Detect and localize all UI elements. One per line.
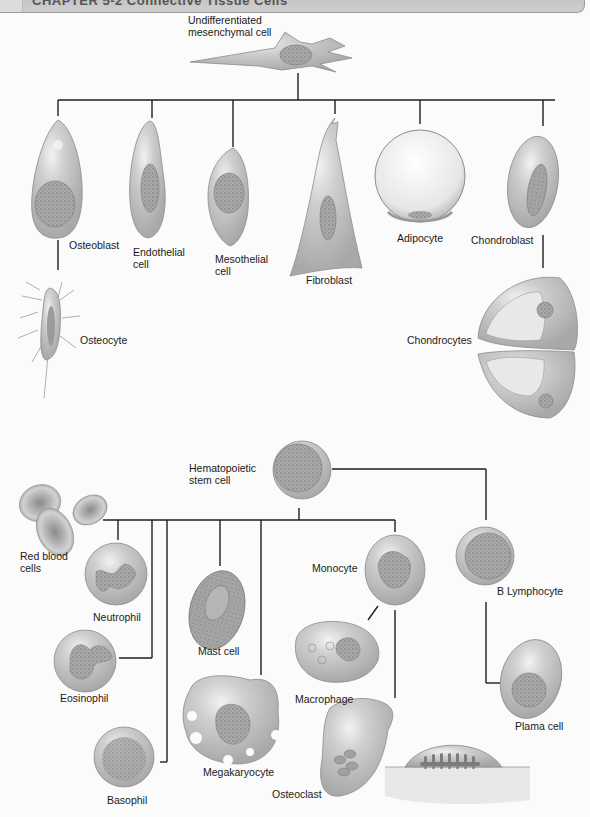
label-chondroblast: Chondroblast (471, 234, 533, 246)
label-neutrophil: Neutrophil (93, 611, 141, 623)
basophil-illustration (94, 727, 154, 787)
label-osteocyte: Osteocyte (80, 334, 127, 346)
endothelial-cell-illustration (130, 121, 166, 238)
label-red-blood-cells: Red blood cells (20, 550, 68, 574)
label-monocyte: Monocyte (312, 562, 358, 574)
label-osteoblast: Osteoblast (69, 239, 119, 251)
eosinophil-illustration (54, 630, 116, 692)
label-fibroblast: Fibroblast (306, 274, 352, 286)
chondrocytes-illustration (478, 277, 577, 418)
adipocyte-illustration (375, 130, 465, 222)
neutrophil-illustration (85, 543, 147, 605)
label-eosinophil: Eosinophil (60, 692, 108, 704)
mast-cell-illustration (181, 564, 254, 655)
label-macrophage: Macrophage (295, 693, 353, 705)
b-lymphocyte-illustration (456, 527, 514, 585)
label-osteoclast: Osteoclast (272, 788, 322, 800)
label-mesothelial-cell: Mesothelial cell (215, 253, 268, 277)
label-mesenchymal-cell: Undifferentiated mesenchymal cell (188, 14, 271, 38)
fibroblast-illustration (290, 118, 362, 276)
megakaryocyte-illustration (183, 676, 281, 765)
chondroblast-illustration (502, 133, 564, 231)
label-hematopoietic-stem-cell: Hematopoietic stem cell (189, 462, 256, 486)
hematopoietic-stem-cell-illustration (273, 441, 331, 499)
mesothelial-cell-illustration (208, 148, 248, 246)
monocyte-illustration (365, 535, 425, 605)
osteocyte-illustration (18, 282, 80, 398)
label-mast-cell: Mast cell (198, 645, 239, 657)
label-basophil: Basophil (107, 794, 147, 806)
label-megakaryocyte: Megakaryocyte (203, 766, 274, 778)
osteoblast-illustration (32, 120, 83, 238)
label-b-lymphocyte: B Lymphocyte (497, 585, 563, 597)
label-endothelial-cell: Endothelial cell (133, 246, 185, 270)
label-chondrocytes: Chondrocytes (407, 334, 472, 346)
osteoclast-illustration (321, 698, 530, 804)
plasma-cell-illustration (492, 633, 571, 726)
hematopoietic-connectors (103, 469, 500, 762)
label-adipocyte: Adipocyte (397, 232, 443, 244)
mesenchymal-cell-illustration (190, 32, 352, 72)
label-plasma-cell: Plama cell (515, 720, 563, 732)
macrophage-illustration (295, 621, 378, 682)
